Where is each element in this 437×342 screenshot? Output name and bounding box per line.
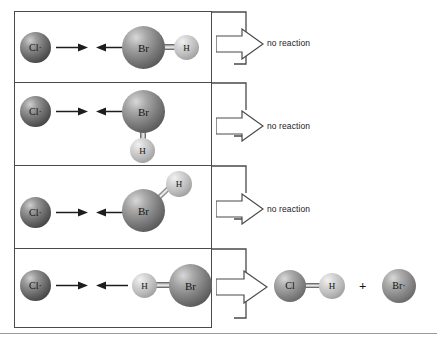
atom-hydrogen-3: H — [166, 171, 192, 197]
atom-label-cl-3: Cl· — [20, 208, 51, 218]
atom-chlorine-radical-3: Cl· — [20, 197, 51, 228]
atom-chlorine-radical-1: Cl· — [20, 32, 51, 63]
atom-label-br-2: Br — [122, 106, 165, 117]
atom-label-h-product: H — [319, 282, 345, 291]
atom-label-h-3: H — [166, 180, 192, 189]
atom-hydrogen-1: H — [174, 35, 199, 60]
atom-chlorine-radical-4: Cl· — [20, 270, 51, 301]
atom-chlorine-radical-2: Cl· — [20, 96, 51, 127]
atom-label-cl-1: Cl· — [20, 43, 51, 53]
atom-hydrogen-product: H — [319, 273, 345, 299]
atom-bromine-3: Br — [122, 189, 165, 232]
atom-label-br-4: Br — [169, 280, 212, 291]
atom-bromine-radical-product: Br· — [382, 269, 416, 303]
reaction-orientation-figure: Cl· Br H Cl· — [0, 0, 437, 342]
atom-bromine-2: Br — [122, 90, 165, 133]
atom-label-cl-product: Cl — [274, 281, 306, 291]
atom-hydrogen-4: H — [132, 273, 157, 298]
block-arrow-2 — [216, 110, 264, 142]
approach-arrow-right-1 — [56, 42, 89, 53]
panel-2: Cl· Br H — [14, 82, 212, 165]
outcome-label-2: no reaction — [267, 121, 310, 131]
atom-label-h-4: H — [132, 281, 157, 290]
bottom-cropped-artifact — [0, 334, 437, 342]
atom-hydrogen-2: H — [130, 138, 155, 163]
atom-bromine-1: Br — [122, 26, 165, 69]
products-group: Cl H + Br· — [270, 265, 437, 315]
panel-4: Cl· H Br — [14, 248, 212, 328]
atom-label-h-2: H — [130, 146, 155, 155]
atom-label-cl-4: Cl· — [20, 281, 51, 291]
atom-label-cl-2: Cl· — [20, 107, 51, 117]
atom-chlorine-product: Cl — [274, 270, 306, 302]
outcome-label-3: no reaction — [267, 204, 310, 214]
block-arrow-3 — [216, 193, 264, 225]
cropped-text-artifact — [3, 336, 5, 342]
atom-bromine-4: Br — [169, 264, 212, 307]
outcome-label-1: no reaction — [267, 38, 310, 48]
approach-arrow-left-4 — [95, 280, 128, 291]
approach-arrow-right-2 — [56, 106, 89, 117]
plus-sign: + — [359, 278, 366, 294]
panel-3: Cl· Br H — [14, 165, 212, 248]
atom-label-br-1: Br — [122, 42, 165, 53]
approach-arrow-right-4 — [56, 280, 89, 291]
approach-arrow-right-3 — [56, 207, 89, 218]
block-arrow-4 — [216, 270, 268, 304]
atom-label-br-product: Br· — [382, 281, 416, 291]
panel-1: Cl· Br H — [14, 11, 212, 82]
atom-label-br-3: Br — [122, 205, 165, 216]
block-arrow-1 — [216, 28, 264, 60]
atom-label-h-1: H — [174, 43, 199, 52]
